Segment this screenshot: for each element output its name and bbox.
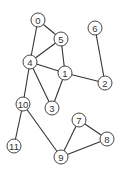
node-label: 10	[18, 99, 29, 110]
node-label: 4	[27, 57, 32, 68]
node-6: 6	[88, 21, 102, 35]
node-3: 3	[45, 101, 59, 115]
node-label: 0	[35, 15, 40, 26]
node-label: 11	[9, 141, 19, 152]
edge-4-3	[30, 62, 52, 108]
node-label: 5	[58, 34, 63, 45]
graph-diagram: 01234567891011	[0, 0, 122, 174]
node-1: 1	[58, 66, 72, 80]
node-4: 4	[23, 55, 37, 69]
edge-2-6	[95, 28, 105, 83]
node-2: 2	[98, 76, 112, 90]
node-label: 9	[58, 152, 63, 163]
node-11: 11	[7, 139, 21, 153]
node-7: 7	[72, 113, 86, 127]
node-10: 10	[16, 97, 30, 111]
node-label: 7	[76, 115, 81, 126]
node-8: 8	[100, 132, 114, 146]
node-label: 2	[102, 78, 107, 89]
node-0: 0	[31, 13, 45, 27]
node-label: 3	[49, 103, 54, 114]
node-label: 6	[92, 23, 97, 34]
node-9: 9	[54, 150, 68, 164]
node-label: 8	[104, 134, 109, 145]
node-label: 1	[62, 68, 67, 79]
node-5: 5	[54, 32, 68, 46]
nodes-layer: 01234567891011	[7, 13, 114, 164]
